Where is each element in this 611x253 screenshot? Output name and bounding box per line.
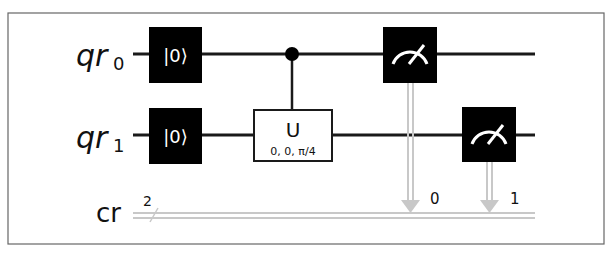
qubit-name: qr xyxy=(76,120,109,155)
u-gate-params: 0, 0, π/4 xyxy=(270,145,315,158)
classical-register-label: cr xyxy=(96,198,121,228)
reset-gate-qr0: |0⟩ xyxy=(149,27,202,83)
reset-gate-label: |0⟩ xyxy=(163,126,188,147)
clbit-label-0: 0 xyxy=(430,190,440,208)
reset-gate-label: |0⟩ xyxy=(163,45,188,66)
classical-width-label: 2 xyxy=(143,193,152,209)
qubit-index: 1 xyxy=(113,135,124,156)
clbit-label-1: 1 xyxy=(510,190,520,208)
u-gate: U 0, 0, π/4 xyxy=(254,110,332,161)
circuit-diagram: qr 0 qr 1 cr 2 |0⟩ |0⟩ U 0, 0, π/4 xyxy=(0,0,611,253)
u-gate-label: U xyxy=(286,118,301,142)
qubit-index: 0 xyxy=(113,53,124,74)
reset-gate-qr1: |0⟩ xyxy=(149,108,202,164)
control-dot xyxy=(285,47,299,61)
qubit-name: qr xyxy=(76,38,109,73)
